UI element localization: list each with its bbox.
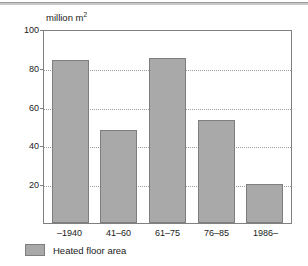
y-axis-tick-label-100: 100 <box>11 26 39 35</box>
y-axis-tick-label-40: 40 <box>11 142 39 151</box>
bars-layer <box>44 31 291 223</box>
x-axis-tick-label-76–85: 76–85 <box>192 227 241 241</box>
legend-swatch-heated-floor-area <box>25 244 45 256</box>
x-axis-tick-label-41–60: 41–60 <box>94 227 143 241</box>
bar-slot <box>95 31 144 223</box>
bar-slot <box>143 31 192 223</box>
y-axis-tick-label-20: 20 <box>11 181 39 190</box>
bar-76–85[interactable] <box>198 120 235 223</box>
chart-legend: Heated floor area <box>25 244 126 256</box>
bar-chart-figure: million m2 10080604020 –194041–6061–7576… <box>0 0 308 266</box>
bar-slot <box>192 31 241 223</box>
bar-slot <box>240 31 289 223</box>
bar-1986–[interactable] <box>246 184 283 223</box>
legend-label-heated-floor-area: Heated floor area <box>53 245 126 256</box>
x-axis-tick-label-1986–: 1986– <box>241 227 290 241</box>
x-axis-tick-label-–1940: –1940 <box>45 227 94 241</box>
bar-–1940[interactable] <box>52 60 89 223</box>
bar-41–60[interactable] <box>100 130 137 223</box>
x-axis-tick-label-61–75: 61–75 <box>143 227 192 241</box>
y-axis-tick-label-60: 60 <box>11 104 39 113</box>
y-axis-tick-label-80: 80 <box>11 65 39 74</box>
x-axis-tick-layer: –194041–6061–7576–851986– <box>43 227 292 241</box>
bar-61–75[interactable] <box>149 58 186 223</box>
plot-area <box>43 30 292 224</box>
bar-slot <box>46 31 95 223</box>
